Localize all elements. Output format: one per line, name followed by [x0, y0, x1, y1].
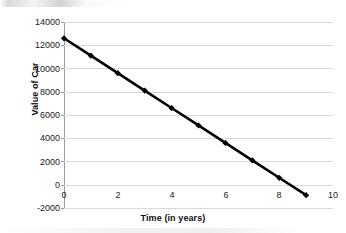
y-tick-label-2000: 2000: [8, 157, 60, 167]
plot-area: [64, 22, 333, 208]
x-tick-label-10: 10: [318, 190, 346, 200]
y-tick-label-4000: 4000: [8, 133, 60, 143]
x-tick-label-2: 2: [103, 190, 133, 200]
x-tick-label-8: 8: [264, 190, 294, 200]
gridline--2000: [64, 208, 333, 209]
x-tick-label-0: 0: [49, 190, 79, 200]
x-tick-label-6: 6: [211, 190, 241, 200]
data-series-line: [64, 22, 333, 208]
x-tick-label-4: 4: [157, 190, 187, 200]
y-axis-title: Value of Car: [30, 49, 40, 129]
chart-container: 14000 12000 10000 8000 6000 4000 2000 0 …: [0, 0, 346, 233]
scan-artifact-bottom: [0, 228, 346, 233]
x-axis-title: Time (in years): [0, 213, 346, 223]
y-tick-label--2000: -2000: [8, 203, 60, 213]
scan-artifact-top: [0, 0, 346, 7]
y-tick-label-0: 0: [8, 180, 60, 190]
y-tick-label-14000: 14000: [8, 17, 60, 27]
